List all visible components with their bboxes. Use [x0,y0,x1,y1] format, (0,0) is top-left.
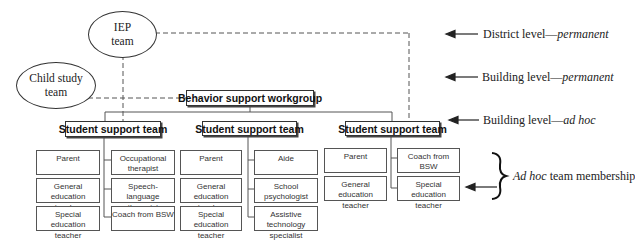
member-parent: Parent [36,150,100,175]
member-general-education-teacher: General education teacher [36,178,100,203]
member-speech-language-therapist: Speech-language therapist [111,178,175,203]
adhoc-team-membership-label: Ad hoc team membership [513,169,635,184]
member-occupational-therapist: Occupational therapist [111,150,175,175]
member-parent: Parent [324,148,387,173]
member-special-education-teacher: Special education teacher [36,206,100,231]
student-support-team-2: Student support team [202,121,297,136]
child-study-team-node: Child study team [16,62,96,109]
member-special-education-teacher: Special education teacher [180,206,242,231]
member-special-education-teacher: Special education teacher [397,176,460,201]
behavior-support-workgroup: Behavior support workgroup [186,90,314,106]
building-level-permanent-label: Building level—permanent [482,70,614,85]
student-support-team-1: Student support team [65,121,161,137]
member-school-psychologist: School psychologist [254,178,318,203]
member-parent: Parent [180,150,242,175]
district-level-label: District level—permanent [483,27,609,42]
member-aide: Aide [254,150,318,175]
student-support-team-3: Student support team [345,121,440,136]
iep-team-node: IEP team [88,11,157,58]
member-coach-from-bsw: Coach from BSW [111,206,175,231]
building-level-adhoc-label: Building level—ad hoc [483,113,596,128]
member-general-education-teacher: General education teacher [180,178,242,203]
member-coach-from-bsw: Coach from BSW [397,148,460,173]
member-general-education-teacher: General education teacher [324,176,387,201]
member-assistive-technology-specialist: Assistive technology specialist [254,206,318,231]
